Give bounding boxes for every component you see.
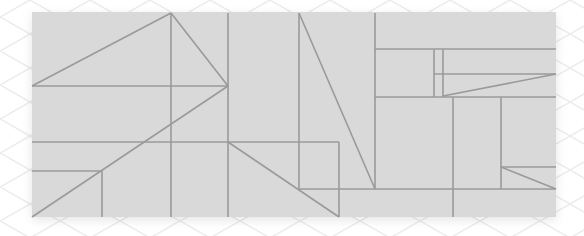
line-diagram [0, 0, 584, 236]
